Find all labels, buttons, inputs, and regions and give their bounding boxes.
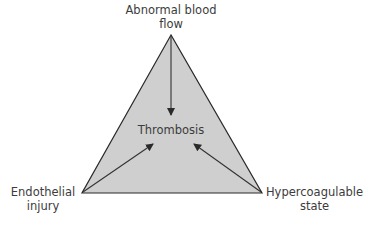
label-top-line1: Abnormal blood (111, 3, 231, 17)
label-right-line2: state (262, 199, 367, 213)
label-left-line2: injury (6, 199, 80, 213)
label-left-vertex: Endothelial injury (6, 185, 80, 213)
label-left-line1: Endothelial (6, 185, 80, 199)
label-right-line1: Hypercoagulable (262, 185, 367, 199)
label-right-vertex: Hypercoagulable state (262, 185, 367, 213)
virchow-triad-diagram: Abnormal blood flow Thrombosis Endotheli… (0, 0, 367, 228)
label-center: Thrombosis (131, 123, 211, 137)
triangle (82, 35, 262, 193)
label-top-vertex: Abnormal blood flow (111, 3, 231, 31)
label-top-line2: flow (111, 17, 231, 31)
